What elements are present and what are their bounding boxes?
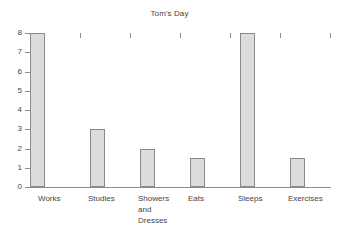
- y-tick-label: 0: [18, 183, 22, 191]
- chart-title: Tom's Day: [0, 9, 339, 19]
- y-tick: [25, 187, 30, 188]
- y-tick-label: 6: [18, 68, 22, 76]
- bar: [240, 33, 255, 187]
- x-tick: [230, 33, 231, 38]
- bar-chart: Tom's Day 012345678 WorksStudiesShowers …: [0, 0, 339, 236]
- y-tick-label: 7: [18, 48, 22, 56]
- y-tick-label: 3: [18, 125, 22, 133]
- x-axis-label: Works: [38, 193, 61, 204]
- bar: [140, 149, 155, 188]
- bar: [90, 129, 105, 187]
- bar: [190, 158, 205, 187]
- x-axis-line: [30, 187, 331, 188]
- y-tick-label: 2: [18, 145, 22, 153]
- x-axis-label: Exercises: [288, 193, 323, 204]
- bar: [290, 158, 305, 187]
- y-tick-label: 4: [18, 106, 22, 114]
- x-tick: [330, 33, 331, 38]
- x-axis-label: Showers and Dresses: [138, 193, 169, 226]
- x-tick: [280, 33, 281, 38]
- y-tick-label: 1: [18, 164, 22, 172]
- x-tick: [180, 33, 181, 38]
- x-tick: [80, 33, 81, 38]
- x-axis-label: Sleeps: [238, 193, 262, 204]
- plot-area: 012345678: [30, 33, 330, 187]
- x-axis-label: Eats: [188, 193, 204, 204]
- y-tick-label: 5: [18, 87, 22, 95]
- bar: [30, 33, 45, 187]
- x-tick: [130, 33, 131, 38]
- y-tick-label: 8: [18, 29, 22, 37]
- x-axis-label: Studies: [88, 193, 115, 204]
